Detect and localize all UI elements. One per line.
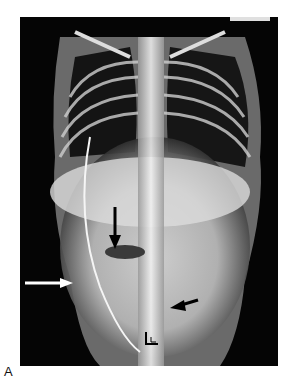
xray-illustration [20,17,278,366]
xray-image [20,17,278,366]
panel-label: A [4,364,13,379]
